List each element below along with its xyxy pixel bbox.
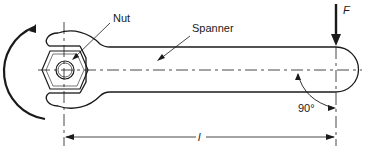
angle-label: 90°: [298, 102, 315, 114]
spanner-diagram: F 90° l Nut Spanner: [0, 0, 381, 156]
dimension-arrow-left-icon: [65, 134, 74, 140]
force-label: F: [343, 4, 351, 16]
rotation-arrow: [4, 24, 45, 119]
spanner-callout: Spanner: [157, 22, 234, 61]
nut-label: Nut: [113, 12, 130, 24]
length-label: l: [198, 131, 201, 143]
length-dimension: l: [65, 131, 335, 143]
dimension-arrow-right-icon: [326, 134, 335, 140]
force-arrowhead-icon: [331, 34, 341, 46]
right-angle-indicator: 90°: [295, 73, 336, 114]
force-arrow: F: [331, 4, 351, 46]
spanner-label: Spanner: [192, 22, 234, 34]
center-lines: [38, 22, 362, 146]
